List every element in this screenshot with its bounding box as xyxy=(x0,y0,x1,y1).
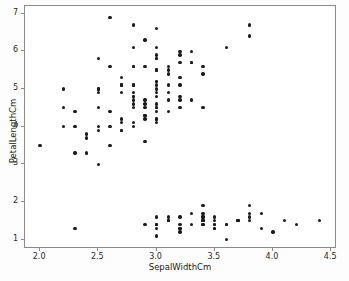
data-point xyxy=(97,87,100,90)
data-point xyxy=(73,110,76,113)
data-point xyxy=(155,223,158,226)
data-point xyxy=(201,219,204,222)
data-point xyxy=(155,110,158,113)
data-point xyxy=(213,223,216,226)
data-point xyxy=(97,125,100,128)
data-point xyxy=(155,102,158,105)
data-point xyxy=(178,106,181,109)
data-point xyxy=(167,83,170,86)
data-point xyxy=(155,227,158,230)
data-point xyxy=(167,110,170,113)
data-point xyxy=(155,117,158,120)
data-points-layer xyxy=(25,6,335,247)
data-point xyxy=(155,234,158,237)
x-tick-mark xyxy=(97,248,98,251)
x-tick-mark xyxy=(156,248,157,251)
data-point xyxy=(201,72,204,75)
data-point xyxy=(97,91,100,94)
data-point xyxy=(295,223,298,226)
data-point xyxy=(108,110,111,113)
x-tick-label: 3.5 xyxy=(194,252,234,261)
scatter-chart-figure: SepalWidthCm PetalLengthCm 2.02.53.03.54… xyxy=(0,0,349,281)
data-point xyxy=(248,34,251,37)
data-point xyxy=(271,230,274,233)
x-tick-mark xyxy=(330,248,331,251)
data-point xyxy=(155,57,158,60)
data-point xyxy=(155,68,158,71)
data-point xyxy=(201,106,204,109)
x-tick-mark xyxy=(39,248,40,251)
data-point xyxy=(178,76,181,79)
data-point xyxy=(248,219,251,222)
data-point xyxy=(167,91,170,94)
y-tick-mark xyxy=(21,88,24,89)
data-point xyxy=(190,61,193,64)
data-point xyxy=(85,151,88,154)
data-point xyxy=(236,219,239,222)
data-point xyxy=(97,57,100,60)
data-point xyxy=(143,65,146,68)
data-point xyxy=(38,144,41,147)
data-point xyxy=(213,227,216,230)
y-tick-mark xyxy=(21,50,24,51)
data-point xyxy=(108,125,111,128)
data-point xyxy=(190,212,193,215)
y-tick-label: 7 xyxy=(0,8,18,17)
data-point xyxy=(260,212,263,215)
data-point xyxy=(143,117,146,120)
data-point xyxy=(155,27,158,30)
x-tick-label: 2.5 xyxy=(77,252,117,261)
data-point xyxy=(97,106,100,109)
data-point xyxy=(120,76,123,79)
data-point xyxy=(108,144,111,147)
y-tick-label: 1 xyxy=(0,234,18,243)
data-point xyxy=(178,53,181,56)
data-point xyxy=(132,65,135,68)
x-tick-mark xyxy=(272,248,273,251)
data-point xyxy=(178,227,181,230)
data-point xyxy=(120,91,123,94)
data-point xyxy=(132,106,135,109)
x-tick-label: 2.0 xyxy=(19,252,59,261)
data-point xyxy=(62,87,65,90)
data-point xyxy=(73,151,76,154)
data-point xyxy=(143,98,146,101)
data-point xyxy=(283,219,286,222)
data-point xyxy=(143,114,146,117)
data-point xyxy=(318,219,321,222)
data-point xyxy=(97,163,100,166)
data-point xyxy=(201,204,204,207)
data-point xyxy=(167,219,170,222)
data-point xyxy=(73,125,76,128)
data-point xyxy=(178,61,181,64)
x-axis-label: SepalWidthCm xyxy=(24,262,336,272)
data-point xyxy=(225,238,228,241)
data-point xyxy=(132,121,135,124)
data-point xyxy=(97,129,100,132)
data-point xyxy=(260,227,263,230)
data-point xyxy=(73,227,76,230)
x-tick-mark xyxy=(214,248,215,251)
y-tick-mark xyxy=(21,239,24,240)
y-tick-mark xyxy=(21,163,24,164)
data-point xyxy=(132,23,135,26)
data-point xyxy=(201,223,204,226)
y-tick-label: 5 xyxy=(0,83,18,92)
data-point xyxy=(178,95,181,98)
data-point xyxy=(225,46,228,49)
data-point xyxy=(178,215,181,218)
data-point xyxy=(155,46,158,49)
data-point xyxy=(143,38,146,41)
data-point xyxy=(120,129,123,132)
data-point xyxy=(132,95,135,98)
data-point xyxy=(190,50,193,53)
data-point xyxy=(178,230,181,233)
data-point xyxy=(155,106,158,109)
data-point xyxy=(120,117,123,120)
data-point xyxy=(178,223,181,226)
y-tick-label: 6 xyxy=(0,45,18,54)
data-point xyxy=(62,106,65,109)
data-point xyxy=(201,65,204,68)
data-point xyxy=(155,91,158,94)
data-point xyxy=(167,65,170,68)
